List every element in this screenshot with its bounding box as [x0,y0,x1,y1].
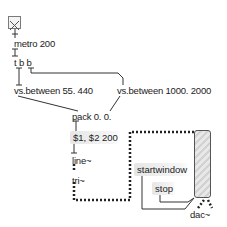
pack-object[interactable]: pack 0. 0. [72,111,111,122]
dac-object[interactable]: dac~ [190,209,210,220]
startwindow-message[interactable]: startwindow [134,163,190,176]
between-object-2[interactable]: vs.between 1000. 2000 [117,85,211,96]
gain-slider[interactable] [194,130,211,198]
line-object[interactable]: line~ [72,155,91,166]
x-icon [9,20,20,31]
patch-cords [0,0,227,227]
between-object-1[interactable]: vs.between 55. 440 [14,85,93,96]
tri-object[interactable]: tri~ [72,175,85,186]
ramp-message[interactable]: $1, $2 200 [70,131,121,144]
stop-message[interactable]: stop [152,182,176,195]
toggle-box[interactable] [8,16,21,29]
trigger-object[interactable]: t b b [14,57,32,68]
metro-object[interactable]: metro 200 [14,38,55,49]
